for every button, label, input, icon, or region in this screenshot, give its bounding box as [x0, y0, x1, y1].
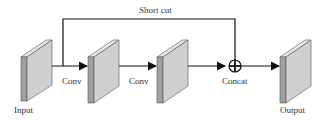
output-block [280, 40, 311, 103]
input-label: Input [14, 105, 33, 115]
residual-block-diagram [0, 0, 329, 121]
output-label: Output [280, 105, 305, 115]
conv2-label: Conv [129, 76, 149, 86]
concat-label: Concat [222, 76, 248, 86]
concat-plus-icon [229, 60, 241, 72]
input-block [21, 40, 52, 101]
conv-block-2 [157, 40, 188, 103]
shortcut-label: Short cut [139, 5, 172, 15]
conv1-label: Conv [62, 76, 82, 86]
conv-block-1 [88, 40, 119, 103]
